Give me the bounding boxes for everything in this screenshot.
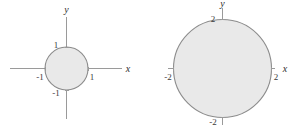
y-axis-label: y <box>219 0 225 9</box>
x-positive-tick-label: 1 <box>90 72 95 82</box>
figure-radius2-circle: 2 -2 -2 2 x y <box>148 0 297 131</box>
y-negative-tick-label: -2 <box>209 117 217 127</box>
x-axis-label: x <box>282 63 288 74</box>
figure-board: 1 -1 -1 1 x y 2 -2 -2 2 <box>0 0 297 131</box>
x-negative-tick-label: -2 <box>164 72 172 82</box>
x-negative-tick-label: -1 <box>36 72 44 82</box>
y-negative-tick-label: -1 <box>52 88 60 98</box>
y-positive-tick-label: 1 <box>54 40 59 50</box>
x-positive-tick-label: 2 <box>274 72 279 82</box>
figure-unit-circle: 1 -1 -1 1 x y <box>0 0 148 131</box>
y-axis-label: y <box>63 4 69 15</box>
x-axis-label: x <box>125 63 131 74</box>
y-positive-tick-label: 2 <box>211 14 216 24</box>
